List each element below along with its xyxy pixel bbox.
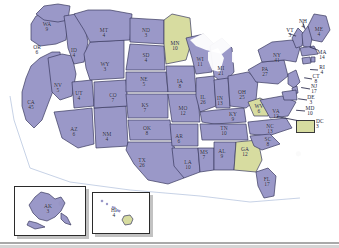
hawaii-inset: HI 4 (92, 192, 150, 234)
dc-legend-label: DC 3 (316, 119, 324, 130)
label-ID-value: 4 (71, 53, 77, 58)
label-OH-value: 25 (238, 95, 246, 100)
label-UT-value: 4 (75, 96, 82, 101)
label-KS-value: 7 (141, 108, 148, 113)
label-MI-value: 21 (218, 71, 225, 76)
label-IA: IA8 (177, 79, 183, 90)
label-NV: NV5 (54, 83, 62, 94)
hawaii-kauai (101, 200, 104, 203)
label-WV-value: 6 (254, 109, 263, 114)
hawaii-shape-svg (93, 193, 149, 233)
label-PA-value: 27 (262, 72, 269, 77)
label-DE: DE3 (307, 95, 314, 106)
label-ME-value: 4 (315, 32, 323, 37)
label-HI: HI 4 (111, 208, 117, 219)
state-IL (196, 76, 216, 112)
label-IL-value: 26 (200, 100, 206, 105)
label-CO: CO7 (109, 93, 117, 104)
label-NE: NE5 (140, 77, 147, 88)
label-VA: VA12 (272, 109, 279, 120)
label-AK: AK 3 (44, 204, 52, 215)
label-NY: NY41 (273, 53, 281, 64)
label-CA: CA45 (27, 100, 35, 111)
label-SC-value: 8 (265, 142, 272, 147)
alaska-panhandle (61, 213, 71, 225)
label-FL: FL17 (264, 177, 271, 188)
label-NE-value: 5 (140, 82, 147, 87)
label-MN: MN10 (171, 41, 180, 52)
state-MD (282, 90, 297, 100)
label-AR: AR6 (175, 134, 183, 145)
label-IA-value: 8 (177, 84, 183, 89)
label-IN: IN13 (217, 96, 223, 107)
label-KY-value: 9 (229, 117, 237, 122)
label-AZ: AZ6 (70, 127, 77, 138)
state-RI (311, 57, 315, 62)
label-TN-value: 10 (220, 131, 227, 136)
label-AZ-value: 6 (70, 132, 77, 137)
label-LA-value: 10 (184, 165, 191, 170)
label-KS: KS7 (141, 103, 148, 114)
label-IL: IL26 (200, 95, 206, 106)
label-WA: WA9 (43, 22, 52, 33)
hawaii-oahu (106, 203, 108, 205)
label-MD: MD10 (306, 106, 315, 117)
label-OK-value: 8 (143, 131, 151, 136)
label-RI: RI4 (319, 65, 325, 76)
label-NC: NC13 (266, 124, 274, 135)
label-MS-value: 7 (200, 155, 208, 160)
label-NM-value: 4 (103, 137, 112, 142)
label-NV-value: 5 (54, 88, 62, 93)
label-TX: TX26 (138, 158, 145, 169)
label-PA: PA27 (262, 67, 269, 78)
label-FL-value: 17 (264, 182, 271, 187)
label-WI-value: 11 (196, 62, 203, 67)
dc-legend-swatch (296, 120, 315, 133)
state-CT (302, 57, 311, 64)
label-MS: MS7 (200, 150, 208, 161)
label-AR-value: 6 (175, 139, 183, 144)
label-MN-value: 10 (171, 46, 180, 51)
label-ND-value: 3 (142, 33, 150, 38)
label-NC-value: 13 (266, 129, 274, 134)
label-NY-value: 41 (273, 58, 281, 63)
label-SD: SD4 (142, 53, 149, 64)
label-WI: WI11 (196, 57, 203, 68)
label-OR: OR6 (33, 45, 41, 56)
alaska-aleutians (27, 221, 45, 229)
label-WY-value: 3 (100, 67, 109, 72)
dc-value: 3 (316, 123, 319, 129)
label-SD-value: 4 (142, 58, 149, 63)
label-MT: MT4 (100, 28, 108, 39)
electoral-vote-map: WA9OR6CA45NV5ID4MT4WY3UT4AZ6CO7NM4ND3SD4… (0, 0, 339, 248)
alaska-inset: AK 3 (14, 186, 86, 236)
label-AL: AL9 (218, 149, 225, 160)
label-NJ: NJ17 (311, 84, 317, 95)
label-MO: MO12 (179, 106, 188, 117)
label-WA-value: 9 (43, 27, 52, 32)
label-MO-value: 12 (179, 111, 188, 116)
label-KY: KY9 (229, 112, 237, 123)
label-SC: SC8 (265, 137, 272, 148)
label-MT-value: 4 (100, 33, 108, 38)
label-TX-value: 26 (138, 163, 145, 168)
label-TN: TN10 (220, 126, 227, 137)
hawaii-big-island (122, 215, 133, 225)
label-AL-value: 9 (218, 154, 225, 159)
label-WV: WV6 (254, 104, 263, 115)
label-WY: WY3 (100, 62, 109, 73)
label-UT: UT4 (75, 91, 82, 102)
label-CA-value: 45 (27, 105, 35, 110)
label-MA: MA14 (318, 50, 327, 61)
label-GA-value: 12 (241, 152, 249, 157)
label-AK-value: 3 (44, 209, 52, 214)
label-ID: ID4 (71, 48, 77, 59)
label-NM: NM4 (103, 132, 112, 143)
label-MI: MI21 (218, 66, 225, 77)
label-OR-value: 6 (33, 50, 41, 55)
label-GA: GA12 (241, 147, 249, 158)
label-OK: OK8 (143, 126, 151, 137)
label-ND: ND3 (142, 28, 150, 39)
label-RI-value: 4 (319, 70, 325, 75)
label-MA-value: 14 (318, 55, 327, 60)
